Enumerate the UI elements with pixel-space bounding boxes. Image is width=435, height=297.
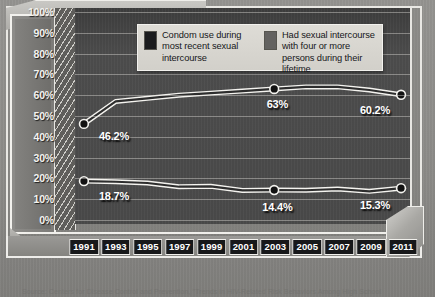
y-axis-tick-label: 90%: [34, 27, 54, 39]
data-point-marker: [271, 186, 278, 193]
y-axis-tick-label: 70%: [34, 68, 54, 80]
y-axis-tick-label: 40%: [34, 131, 54, 143]
legend-swatch-icon: [144, 31, 157, 50]
data-point-marker: [271, 85, 278, 92]
x-axis-tick-label: 1993: [101, 239, 131, 255]
y-axis-tick-label: 80%: [34, 48, 54, 60]
y-axis-tick-label: 0%: [39, 214, 54, 226]
y-axis-tick-label: 100%: [28, 6, 54, 18]
series-line-halo: [84, 87, 401, 124]
x-axis-tick-label: 2003: [261, 239, 291, 255]
x-axis-tick-label: 2011: [388, 239, 417, 255]
gridline: [75, 95, 410, 96]
x-axis-labels: 1991199319951997199920012003200520072009…: [75, 239, 412, 259]
series-line: [84, 181, 401, 191]
x-axis-baseline: [26, 232, 406, 234]
x-axis-tick-label: 2009: [356, 239, 386, 255]
gridline: [75, 158, 410, 159]
y-axis-tick-label: 50%: [34, 110, 54, 122]
x-axis-tick-label: 1995: [133, 239, 163, 255]
y-axis-labels: 100%90%80%70%60%50%40%30%20%10%0%: [10, 8, 58, 228]
y-axis-tick-label: 10%: [34, 193, 54, 205]
legend-item-condom-use: Condom use during most recent sexual int…: [144, 30, 258, 64]
legend-label: Had sexual intercourse with four or more…: [282, 30, 378, 75]
y-axis-tick-label: 60%: [34, 89, 54, 101]
y-axis-tick-label: 30%: [34, 152, 54, 164]
x-axis-tick-label: 2007: [324, 239, 354, 255]
legend-item-four-or-more-partners: Had sexual intercourse with four or more…: [264, 30, 378, 75]
data-point-marker: [80, 120, 87, 127]
x-axis-tick-label: 2005: [293, 239, 323, 255]
y-axis-tick-label: 20%: [34, 172, 54, 184]
gridline: [75, 178, 410, 179]
source-note: Source: Centers for Disease Control and …: [22, 288, 422, 296]
x-axis-tick-label: 1991: [69, 239, 99, 255]
chart-container: 100%90%80%70%60%50%40%30%20%10%0% 199119…: [0, 0, 435, 297]
gridline: [75, 220, 410, 221]
x-axis-tick-label: 1999: [197, 239, 227, 255]
legend-label: Condom use during most recent sexual int…: [162, 30, 258, 64]
legend-swatch-icon: [264, 31, 277, 50]
gridline: [75, 137, 410, 138]
x-axis-tick-label: 1997: [165, 239, 195, 255]
data-point-marker: [397, 185, 404, 192]
chart-legend: Condom use during most recent sexual int…: [137, 24, 383, 71]
gridline: [75, 116, 410, 117]
gridline: [75, 199, 410, 200]
gridline: [75, 12, 410, 13]
x-axis-tick-label: 2001: [229, 239, 259, 255]
